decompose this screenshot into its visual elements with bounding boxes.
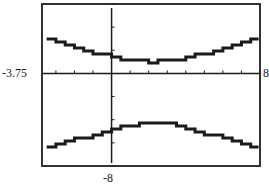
xmax-label: 8	[263, 67, 269, 79]
graph-plot	[0, 0, 269, 186]
lower-branch-curve	[47, 123, 259, 147]
xmin-label: -3.75	[2, 67, 27, 79]
ymin-label: -8	[103, 172, 113, 184]
curves	[47, 39, 259, 147]
upper-branch-curve	[47, 39, 259, 63]
